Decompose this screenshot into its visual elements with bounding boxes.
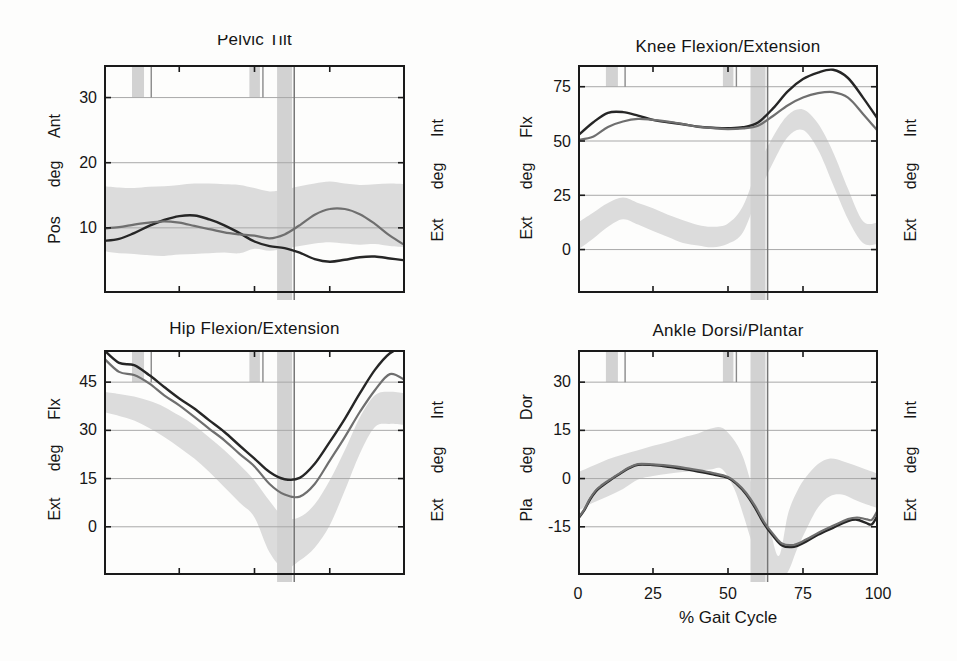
right-axis-label-bottom: Ext xyxy=(408,480,468,540)
gait-kinematics-figure: Pelvic Tilt 30 20 10 Ant deg Pos Int deg… xyxy=(0,0,957,661)
x-tick-label: 100 xyxy=(858,585,898,603)
right-axis-label-units: deg xyxy=(408,146,468,206)
right-axis-label-bottom: Ext xyxy=(881,200,941,260)
knee-chart xyxy=(578,65,878,293)
y-tick-label: 75 xyxy=(537,78,571,96)
knee-title: Knee Flexion/Extension xyxy=(578,37,878,57)
ankle-title: Ankle Dorsi/Plantar xyxy=(578,321,878,341)
x-tick-label: 75 xyxy=(783,585,823,603)
left-axis-label-bottom: Pos xyxy=(25,200,85,260)
left-axis-label-units: deg xyxy=(497,146,557,206)
x-tick-label: 0 xyxy=(558,585,598,603)
left-axis-label-bottom: Ext xyxy=(25,479,85,539)
pelvic-tilt-chart xyxy=(104,65,405,293)
ankle-chart xyxy=(578,350,878,575)
left-axis-label-bottom: Ext xyxy=(497,198,557,258)
right-axis-label-units: deg xyxy=(881,146,941,206)
x-tick-label: 25 xyxy=(633,585,673,603)
left-axis-label-units: deg xyxy=(25,144,85,204)
hip-title: Hip Flexion/Extension xyxy=(104,319,405,339)
pelvic-tilt-title: Pelvic Tilt xyxy=(104,35,405,48)
hip-chart xyxy=(104,350,405,575)
right-axis-label-bottom: Ext xyxy=(881,480,941,540)
left-axis-label-top: Dor xyxy=(497,377,557,437)
left-axis-label-bottom: Pla xyxy=(497,480,557,540)
right-axis-label-bottom: Ext xyxy=(408,200,468,260)
x-tick-label: 50 xyxy=(708,585,748,603)
x-axis-title: % Gait Cycle xyxy=(628,608,828,628)
